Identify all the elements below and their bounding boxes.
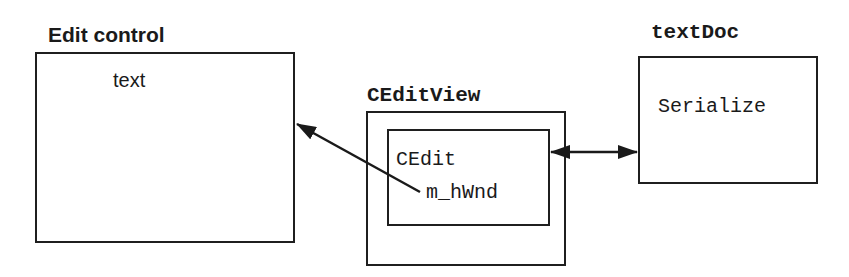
connector-arrows <box>0 0 849 277</box>
arrow-mhwnd-to-edit-control <box>297 124 420 192</box>
